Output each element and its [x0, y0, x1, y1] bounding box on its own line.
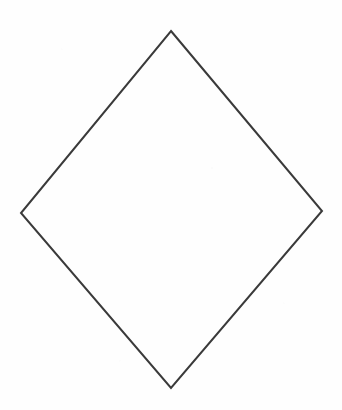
drawing-canvas: [0, 0, 342, 410]
diamond-shape: [21, 31, 322, 388]
diamond-figure: [0, 0, 342, 410]
